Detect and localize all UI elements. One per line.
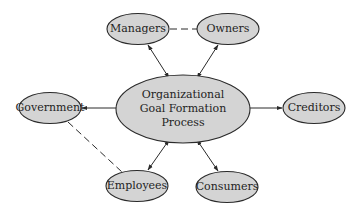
- node-managers-label: Managers: [110, 22, 166, 35]
- node-creditors: Creditors: [283, 93, 345, 124]
- employees-center-arrow: [148, 140, 169, 170]
- center-label-line-3: Process: [161, 116, 205, 129]
- node-employees-label: Employees: [107, 179, 168, 192]
- center-node: Organizational Goal Formation Process: [116, 75, 250, 143]
- node-government-label: Government: [16, 101, 86, 114]
- node-government: Government: [16, 93, 86, 124]
- government-employees-dashed-link: [68, 122, 122, 172]
- node-managers: Managers: [107, 14, 169, 45]
- node-creditors-label: Creditors: [288, 101, 341, 114]
- center-label-line-2: Goal Formation: [140, 102, 227, 115]
- consumers-center-arrow: [197, 140, 218, 171]
- managers-center-arrow: [148, 45, 169, 78]
- node-owners-label: Owners: [207, 22, 250, 35]
- node-owners: Owners: [197, 14, 259, 45]
- node-consumers: Consumers: [196, 172, 259, 203]
- owners-center-arrow: [197, 45, 218, 78]
- center-label-line-1: Organizational: [142, 88, 225, 101]
- goal-formation-diagram: Organizational Goal Formation Process Ma…: [0, 0, 362, 216]
- node-employees: Employees: [106, 171, 168, 202]
- node-consumers-label: Consumers: [196, 180, 259, 193]
